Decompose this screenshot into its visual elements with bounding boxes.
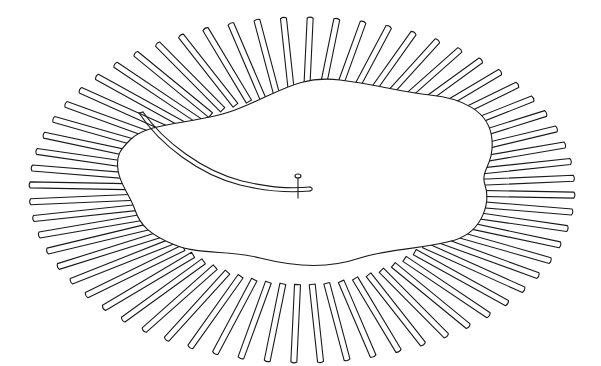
strip: [309, 284, 323, 363]
strip: [238, 281, 271, 359]
strip: [291, 284, 301, 363]
strip: [280, 17, 294, 96]
diagram-figure: [0, 0, 601, 366]
